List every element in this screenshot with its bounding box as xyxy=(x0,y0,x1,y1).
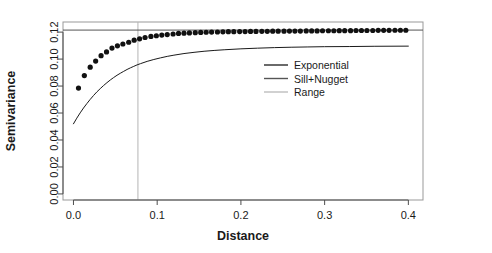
data-point xyxy=(198,30,203,35)
data-point xyxy=(253,29,258,34)
data-point xyxy=(298,28,303,33)
y-axis-title: Semivariance xyxy=(4,71,18,152)
data-point xyxy=(309,28,314,33)
legend-label: Exponential xyxy=(294,59,349,71)
data-point xyxy=(170,31,175,36)
data-point xyxy=(142,35,147,40)
data-point xyxy=(259,29,264,34)
data-point xyxy=(386,28,391,33)
semivariogram-figure: 0.00.10.20.30.4 0.000.020.040.060.080.10… xyxy=(0,0,492,253)
data-point xyxy=(370,28,375,33)
data-point xyxy=(187,30,192,35)
y-axis-tick-label: 0.02 xyxy=(48,156,60,177)
data-point xyxy=(287,28,292,33)
data-point xyxy=(181,31,186,36)
data-point xyxy=(220,29,225,34)
y-axis-tick-label: 0.12 xyxy=(48,21,60,42)
data-point xyxy=(126,40,131,45)
x-axis-tick-label: 0.4 xyxy=(401,209,416,221)
data-point xyxy=(109,45,114,50)
data-point xyxy=(82,73,87,78)
data-point xyxy=(314,28,319,33)
legend-label: Range xyxy=(294,86,325,98)
data-point xyxy=(326,28,331,33)
data-point xyxy=(242,29,247,34)
data-point xyxy=(381,28,386,33)
data-point xyxy=(76,85,81,90)
data-point xyxy=(231,29,236,34)
data-point xyxy=(337,28,342,33)
data-point xyxy=(342,28,347,33)
data-point xyxy=(265,29,270,34)
data-point xyxy=(403,28,408,33)
x-axis-tick-label: 0.1 xyxy=(150,209,165,221)
data-point xyxy=(320,28,325,33)
x-axis-tick-label: 0.0 xyxy=(66,209,81,221)
data-point xyxy=(292,28,297,33)
data-point xyxy=(115,43,120,48)
data-point xyxy=(237,29,242,34)
data-point xyxy=(359,28,364,33)
data-point xyxy=(209,30,214,35)
data-point xyxy=(154,33,159,38)
data-point xyxy=(176,31,181,36)
data-point xyxy=(148,34,153,39)
data-point xyxy=(364,28,369,33)
data-point xyxy=(215,29,220,34)
data-point xyxy=(165,32,170,37)
data-point xyxy=(132,38,137,43)
data-point xyxy=(93,59,98,64)
data-point xyxy=(348,28,353,33)
data-point xyxy=(104,49,109,54)
data-point xyxy=(120,41,125,46)
data-point xyxy=(88,65,93,70)
x-axis-tick-label: 0.2 xyxy=(233,209,248,221)
y-axis-tick-label: 0.00 xyxy=(48,183,60,204)
data-point xyxy=(137,36,142,41)
x-axis-tick-label: 0.3 xyxy=(317,209,332,221)
data-point xyxy=(193,30,198,35)
data-point xyxy=(276,29,281,34)
semivariogram-chart: 0.00.10.20.30.4 0.000.020.040.060.080.10… xyxy=(0,0,492,253)
data-point xyxy=(270,29,275,34)
y-axis-tick-label: 0.06 xyxy=(48,102,60,123)
y-axis-tick-label: 0.04 xyxy=(48,129,60,150)
data-point xyxy=(331,28,336,33)
legend-label: Sill+Nugget xyxy=(294,73,348,85)
y-axis-tick-label: 0.10 xyxy=(48,48,60,69)
data-point xyxy=(353,28,358,33)
data-point xyxy=(281,29,286,34)
y-axis-tick-label: 0.08 xyxy=(48,75,60,96)
data-point xyxy=(304,28,309,33)
data-point xyxy=(98,53,103,58)
data-point xyxy=(159,32,164,37)
data-point xyxy=(392,28,397,33)
x-axis-title: Distance xyxy=(217,229,269,243)
data-point xyxy=(226,29,231,34)
data-point xyxy=(204,30,209,35)
data-point xyxy=(376,28,381,33)
data-point xyxy=(248,29,253,34)
data-point xyxy=(398,28,403,33)
